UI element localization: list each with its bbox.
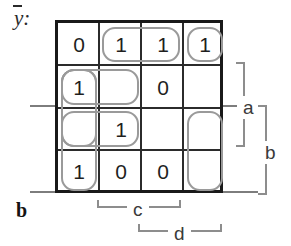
kmap-cell-r4c2[interactable]: 0 (100, 150, 142, 193)
karnaugh-map-grid: 0 1 1 1 1 0 1 1 0 0 (55, 20, 223, 193)
axis-label-c: c (127, 199, 149, 220)
guide-line-left-bottom (30, 191, 55, 193)
kmap-cell-r1c3[interactable]: 1 (142, 23, 184, 66)
kmap-cell-r1c2[interactable]: 1 (100, 23, 142, 66)
output-variable-letter: y (14, 8, 23, 29)
axis-label-d: d (168, 223, 191, 244)
kmap-cell-r3c1[interactable] (58, 108, 100, 151)
guide-line-left-mid (30, 105, 55, 107)
kmap-cell-r4c4[interactable] (184, 150, 226, 193)
kmap-cell-r2c1[interactable]: 1 (58, 66, 100, 109)
output-variable-colon: : (23, 6, 30, 30)
output-variable-label: y: (14, 8, 30, 29)
kmap-cell-r2c3[interactable]: 0 (142, 66, 184, 109)
axis-label-b-bottom-left: b (16, 200, 27, 220)
kmap-cell-r3c4[interactable] (184, 108, 226, 151)
kmap-cell-r4c1[interactable]: 1 (58, 150, 100, 193)
axis-label-a: a (240, 96, 257, 119)
kmap-cell-r1c1[interactable]: 0 (58, 23, 100, 66)
guide-line-right-mid (223, 105, 237, 107)
kmap-cell-r3c3[interactable] (142, 108, 184, 151)
kmap-cell-r4c3[interactable]: 0 (142, 150, 184, 193)
guide-line-right-bottom (223, 191, 258, 193)
kmap-cell-r1c4[interactable]: 1 (184, 23, 226, 66)
kmap-cell-r2c4[interactable] (184, 66, 226, 109)
axis-label-b-right: b (262, 141, 279, 164)
kmap-cell-r3c2[interactable]: 1 (100, 108, 142, 151)
kmap-cell-r2c2[interactable] (100, 66, 142, 109)
